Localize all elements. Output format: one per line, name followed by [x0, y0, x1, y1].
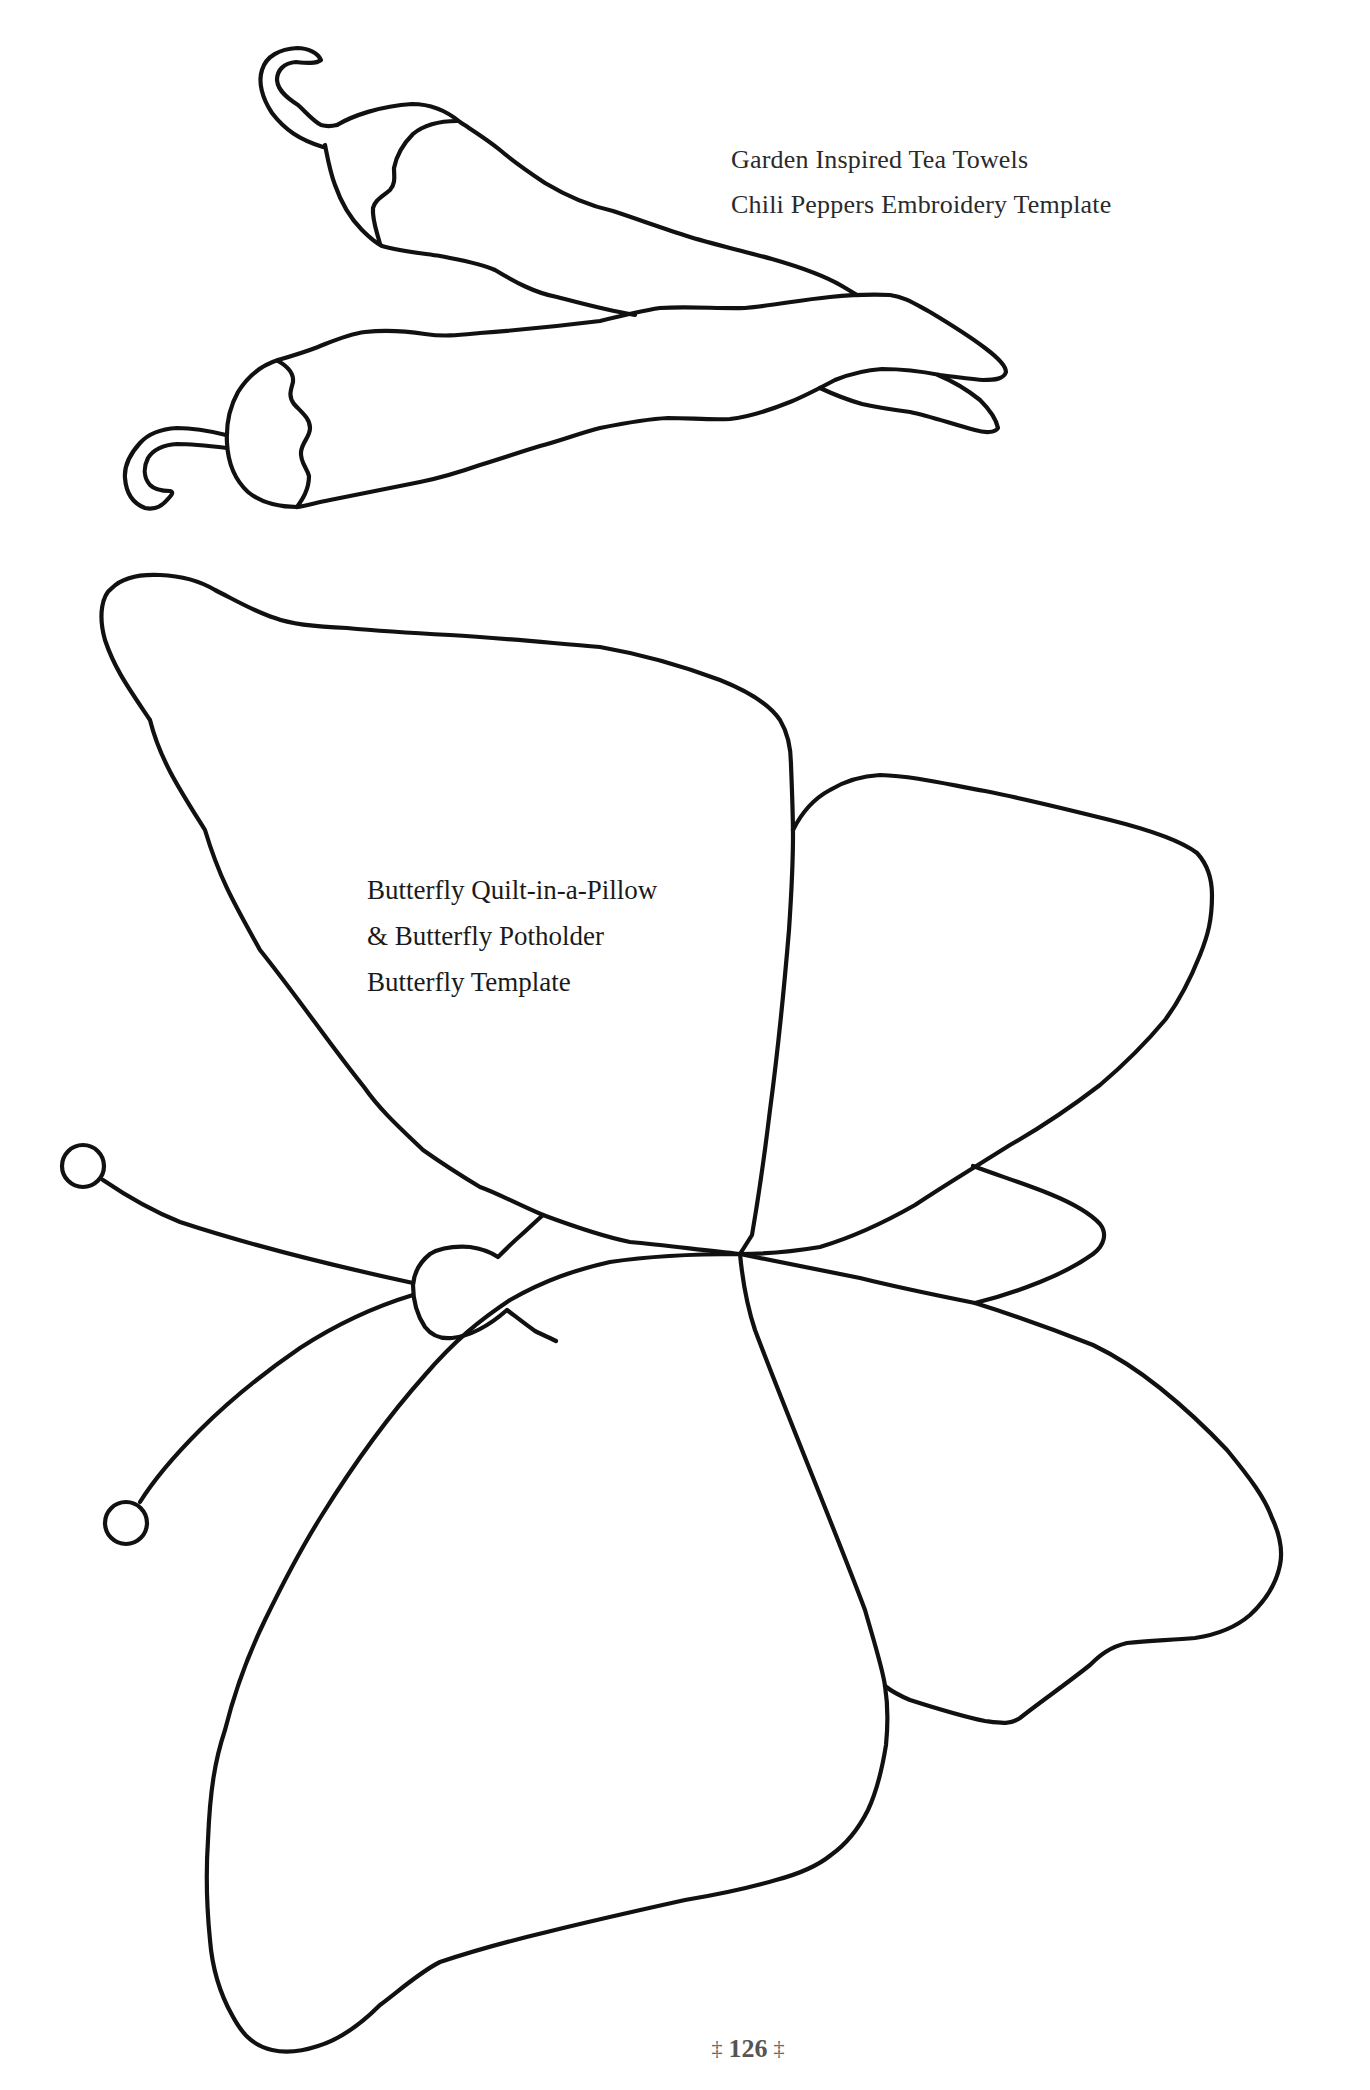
bottom-chili-cap-inner	[278, 361, 310, 507]
bottom-chili-cap-outer	[227, 360, 297, 507]
double-dagger-ornament-left-icon: ‡	[712, 2035, 723, 2061]
top-chili-pepper-icon	[260, 48, 998, 432]
butterfly-caption-line-2: & Butterfly Potholder	[367, 913, 657, 959]
line-art	[0, 0, 1370, 2090]
chili-caption-line-2: Chili Peppers Embroidery Template	[731, 182, 1112, 227]
butterfly-body	[413, 1215, 556, 1341]
butterfly-upper-right-wing	[740, 775, 1212, 1254]
butterfly-antenna-upper	[103, 1180, 413, 1283]
butterfly-right-hindwing	[973, 1166, 1104, 1303]
top-chili-stem	[260, 48, 337, 147]
page-number-footer: ‡126‡	[0, 2034, 1370, 2064]
page-number: 126	[729, 2034, 768, 2064]
top-chili-tip	[820, 375, 998, 432]
butterfly-antenna-knob-lower	[105, 1502, 147, 1544]
chili-template-caption: Garden Inspired Tea Towels Chili Peppers…	[731, 137, 1112, 227]
butterfly-antenna-lower	[140, 1295, 413, 1502]
butterfly-icon	[62, 575, 1281, 2052]
butterfly-template-caption: Butterfly Quilt-in-a-Pillow & Butterfly …	[367, 867, 657, 1005]
top-chili-underside	[325, 145, 635, 315]
butterfly-antenna-knob-upper	[62, 1145, 104, 1187]
butterfly-lower-right-wing	[740, 1254, 1281, 1723]
butterfly-caption-line-3: Butterfly Template	[367, 959, 657, 1005]
chili-caption-line-1: Garden Inspired Tea Towels	[731, 137, 1112, 182]
double-dagger-ornament-right-icon: ‡	[774, 2035, 785, 2061]
bottom-chili-pepper-icon	[125, 295, 1006, 509]
butterfly-center-vein	[207, 1254, 888, 2052]
bottom-chili-body-top	[278, 295, 1006, 507]
butterfly-caption-line-1: Butterfly Quilt-in-a-Pillow	[367, 867, 657, 913]
template-page: Garden Inspired Tea Towels Chili Peppers…	[0, 0, 1370, 2090]
bottom-chili-stem	[125, 428, 227, 509]
top-chili-cap	[373, 121, 457, 244]
